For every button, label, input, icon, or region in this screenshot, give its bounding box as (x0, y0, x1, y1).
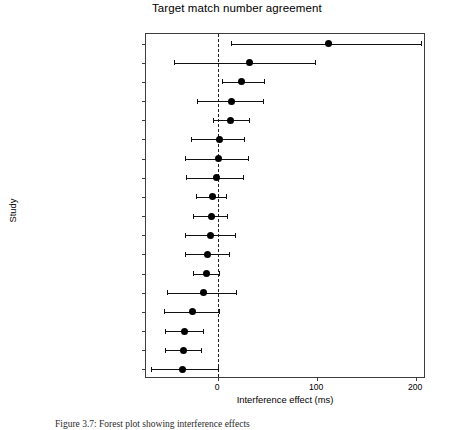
estimate-point (207, 232, 214, 239)
y-axis-tick (142, 293, 146, 294)
ci-upper-cap (219, 271, 220, 276)
x-axis-tick (317, 377, 318, 381)
estimate-point (208, 213, 215, 220)
estimate-point (227, 117, 234, 124)
y-axis-tick (142, 159, 146, 160)
ci-lower-cap (191, 137, 192, 142)
estimate-point (325, 40, 332, 47)
confidence-interval-line (174, 63, 315, 64)
estimate-point (228, 98, 235, 105)
ci-upper-cap (243, 175, 244, 180)
forest-plot-figure: Target match number agreement FranckEtAl… (0, 0, 449, 430)
y-axis-tick (142, 197, 146, 198)
ci-upper-cap (229, 252, 230, 257)
y-axis-tick (142, 274, 146, 275)
y-axis-tick (142, 82, 146, 83)
y-axis-tick (142, 120, 146, 121)
ci-lower-cap (231, 41, 232, 46)
ci-lower-cap (185, 252, 186, 257)
plot-title: Target match number agreement (152, 2, 322, 16)
y-axis-tick (142, 331, 146, 332)
estimate-point (204, 251, 211, 258)
ci-lower-cap (186, 175, 187, 180)
figure-caption: Figure 3.7: Forest plot showing interfer… (55, 419, 435, 429)
plot-panel (145, 33, 425, 378)
ci-lower-cap (164, 309, 165, 314)
ci-lower-cap (193, 214, 194, 219)
estimate-point (181, 328, 188, 335)
ci-upper-cap (248, 156, 249, 161)
y-axis-tick (142, 350, 146, 351)
ci-upper-cap (219, 309, 220, 314)
estimate-point (215, 155, 222, 162)
x-axis-tick-label: 0 (215, 382, 220, 392)
y-axis-title: Study (7, 181, 18, 241)
estimate-point (189, 308, 196, 315)
ci-upper-cap (227, 214, 228, 219)
estimate-point (203, 270, 210, 277)
estimate-point (213, 174, 220, 181)
ci-upper-cap (263, 99, 264, 104)
y-axis-tick (142, 178, 146, 179)
ci-upper-cap (249, 118, 250, 123)
ci-upper-cap (235, 233, 236, 238)
y-axis-tick (142, 44, 146, 45)
ci-lower-cap (193, 271, 194, 276)
x-axis-title: Interference effect (ms) (145, 394, 425, 405)
ci-lower-cap (165, 348, 166, 353)
ci-lower-cap (151, 367, 152, 372)
estimate-point (238, 78, 245, 85)
estimate-point (180, 347, 187, 354)
y-axis-tick (142, 254, 146, 255)
ci-lower-cap (185, 156, 186, 161)
y-axis-tick (142, 369, 146, 370)
x-axis-tick (218, 377, 219, 381)
ci-upper-cap (226, 194, 227, 199)
ci-upper-cap (218, 367, 219, 372)
ci-upper-cap (201, 348, 202, 353)
ci-lower-cap (222, 79, 223, 84)
ci-lower-cap (213, 118, 214, 123)
ci-lower-cap (165, 329, 166, 334)
y-axis-tick (142, 235, 146, 236)
ci-lower-cap (196, 194, 197, 199)
ci-upper-cap (421, 41, 422, 46)
ci-upper-cap (315, 60, 316, 65)
y-axis-tick (142, 139, 146, 140)
x-axis-tick (416, 377, 417, 381)
ci-lower-cap (167, 290, 168, 295)
y-axis-tick (142, 312, 146, 313)
estimate-point (209, 193, 216, 200)
estimate-point (200, 289, 207, 296)
ci-upper-cap (203, 329, 204, 334)
y-axis-tick (142, 63, 146, 64)
ci-lower-cap (197, 99, 198, 104)
y-axis-tick (142, 101, 146, 102)
x-axis-tick-label: 100 (309, 382, 323, 392)
ci-lower-cap (174, 60, 175, 65)
estimate-point (246, 59, 253, 66)
estimate-point (179, 366, 186, 373)
zero-reference-line (218, 34, 219, 377)
ci-upper-cap (236, 290, 237, 295)
x-axis-tick-label: 200 (408, 382, 422, 392)
y-axis-tick (142, 216, 146, 217)
ci-lower-cap (185, 233, 186, 238)
estimate-point (216, 136, 223, 143)
ci-upper-cap (264, 79, 265, 84)
ci-upper-cap (244, 137, 245, 142)
